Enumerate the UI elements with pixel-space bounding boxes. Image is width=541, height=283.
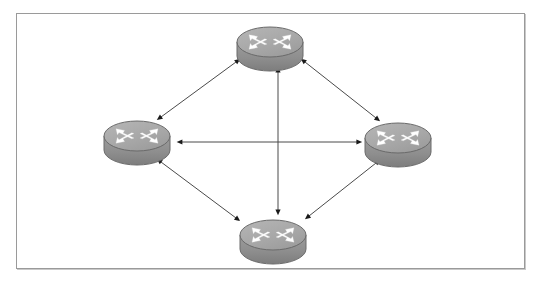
router-icon [237,27,303,71]
link-router-top-router-left[interactable] [161,62,236,117]
router-icon [240,220,306,264]
router-node-left[interactable] [104,121,170,165]
router-node-top[interactable] [237,27,303,71]
links-layer [161,62,376,218]
router-node-right[interactable] [365,123,431,167]
nodes-layer [104,27,431,264]
diagram-canvas [0,0,541,283]
router-node-bottom[interactable] [240,220,306,264]
link-router-left-router-bottom[interactable] [161,162,236,218]
network-topology-diagram [0,0,541,283]
link-router-top-router-right[interactable] [305,62,376,118]
link-router-right-router-bottom[interactable] [309,163,376,216]
router-icon [365,123,431,167]
router-icon [104,121,170,165]
